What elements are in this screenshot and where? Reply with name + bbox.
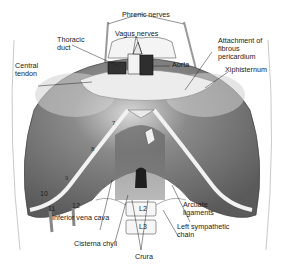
vertebra-l3: L3 [139,223,147,231]
rib-12: 12 [72,202,80,210]
label-attachment-fibrous-pericardium: Attachment of fibrous pericardium [218,37,262,61]
rib-7: 7 [112,119,115,127]
label-phrenic-nerves: Phrenic nerves [122,11,170,19]
label-vagus-nerves: Vagus nerves [115,30,158,38]
rib-8: 8 [91,145,94,153]
label-crura: Crura [135,253,153,261]
vertebra-l2: L2 [139,205,147,213]
label-xiphisternum: Xiphisternum [225,66,267,74]
rib-11: 11 [48,205,55,213]
label-arcuate-ligaments: Arcuate ligaments [183,201,214,217]
label-central-tendon: Central tendon [15,62,38,78]
rib-10: 10 [40,190,48,198]
label-aorta: Aorta [172,61,189,69]
rib-9: 9 [65,174,68,182]
label-cisterna-chyli: Cisterna chyli [74,240,117,248]
label-left-sympathetic-chain: Left sympathetic chain [177,223,229,239]
label-inferior-vena-cava: Inferior vena cava [52,214,109,222]
diaphragm-diagram: Phrenic nerves Vagus nerves Thoracic duc… [0,0,283,267]
label-thoracic-duct: Thoracic duct [57,36,85,52]
